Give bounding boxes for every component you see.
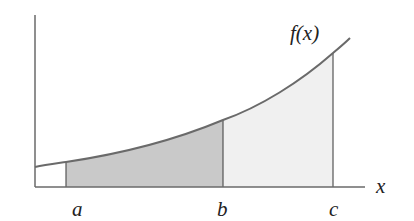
function-label: f(x) bbox=[290, 21, 319, 45]
area-b-to-c bbox=[223, 53, 333, 187]
point-label-c: c bbox=[329, 197, 339, 221]
x-axis-label: x bbox=[375, 174, 386, 198]
point-label-a: a bbox=[72, 197, 83, 221]
integral-diagram: f(x) x a b c bbox=[0, 0, 414, 221]
point-label-b: b bbox=[217, 197, 228, 221]
